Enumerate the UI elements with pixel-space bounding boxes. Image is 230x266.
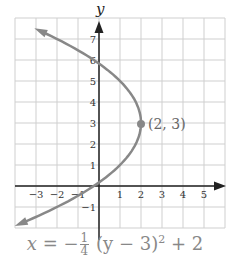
equation-exponent: 2 — [158, 233, 165, 246]
x-tick-label: 3 — [159, 189, 165, 200]
y-axis-label: y — [95, 0, 105, 18]
equation-negative: − — [64, 233, 79, 254]
x-tick-label: 1 — [117, 189, 123, 200]
y-tick-label: 1 — [90, 160, 96, 171]
x-tick-label: −3 — [29, 189, 44, 200]
y-tick-label: 2 — [90, 139, 96, 150]
y-axis-arrow-icon — [95, 21, 104, 33]
curve-arrow-bottom-icon — [15, 217, 29, 226]
x-tick-label: −2 — [50, 189, 65, 200]
x-tick-label: 4 — [180, 189, 186, 200]
x-tick-label: 5 — [201, 189, 207, 200]
vertex-label: (2, 3) — [148, 116, 186, 132]
equation-equals: = — [43, 233, 58, 254]
vertex-point — [137, 120, 145, 128]
x-axis-arrow-icon — [214, 182, 226, 191]
y-tick-label: 4 — [90, 97, 96, 108]
equation-tail: + 2 — [171, 233, 203, 254]
x-tick-labels: −3−2−112345 — [29, 189, 208, 200]
equation-caption: x = −14 (y − 3)2 + 2 — [0, 232, 230, 257]
equation-fraction: 14 — [80, 232, 90, 257]
equation-body: (y − 3) — [96, 233, 158, 254]
y-tick-label: 7 — [90, 34, 96, 45]
y-tick-label: −1 — [81, 202, 96, 213]
y-tick-label: 3 — [90, 118, 96, 129]
x-tick-label: 2 — [138, 189, 144, 200]
parabola-chart: y −3−2−112345 −11234567 (2, 3) — [0, 0, 230, 266]
equation-lhs: x — [27, 233, 37, 254]
y-tick-label: 5 — [90, 76, 96, 87]
